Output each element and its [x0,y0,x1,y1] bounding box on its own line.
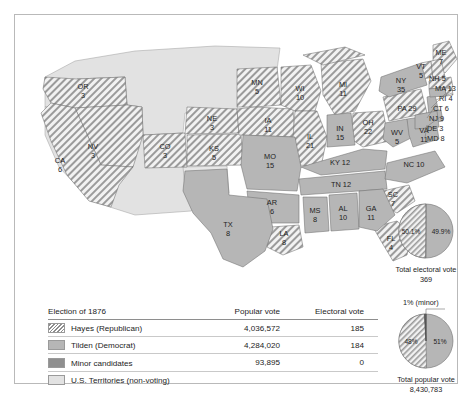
table-row: Hayes (Republican) 4,036,572 185 [48,320,378,337]
label-MA: MA 13 [435,84,456,93]
legend-row-minor: Minor candidates [48,354,202,371]
label-AL: AL [338,204,347,213]
label-OH-votes: 22 [364,127,372,136]
territories-popular-vote [202,371,302,388]
label-MO: MO [264,152,276,161]
header-election-title: Election of 1876 [48,304,202,320]
label-NH: NH 5 [429,74,446,83]
election-results-legend: Election of 1876 Popular vote Electoral … [48,304,378,388]
label-IN-votes: 15 [336,133,344,142]
legend-label-hayes: Hayes (Republican) [71,324,142,333]
label-SC: SC [388,190,399,199]
label-TX-votes: 8 [226,229,230,238]
label-GA: GA [366,204,377,213]
label-IL: IL [307,132,313,141]
legend-label-minor: Minor candidates [71,359,133,368]
label-ME-votes: 7 [439,57,443,66]
label-MI: MI [339,80,347,89]
label-OH: OH [362,118,373,127]
label-WV-votes: 5 [395,137,399,146]
territories-electoral-vote [302,371,378,388]
label-CA-votes: 6 [58,165,62,174]
popular-pie-caption-line1: Total popular vote [393,375,459,385]
label-WI-votes: 10 [296,93,304,102]
label-VT-votes: 5 [419,71,423,80]
label-MI-votes: 11 [339,89,347,98]
legend-row-hayes: Hayes (Republican) [48,320,202,337]
label-NE-votes: 3 [210,123,214,132]
table-header-row: Election of 1876 Popular vote Electoral … [48,304,378,320]
minor-label-leader-line [393,305,459,319]
label-OR: OR [77,82,88,91]
electoral-pie-caption-line2: 369 [393,275,459,285]
label-IA: IA [265,116,272,125]
label-NY-votes: 35 [397,85,405,94]
map-figure-frame: OR 3 NV 3 CA 6 CO 3 NE 3 KS 5 MN 5 IA 11… [14,14,458,384]
label-CO-votes: 3 [163,151,167,160]
minor-dark-swatch [48,358,65,368]
electoral-pie-caption: Total electoral vote 369 [393,265,459,284]
label-MN-votes: 5 [255,87,259,96]
label-TX: TX [223,220,233,229]
label-ME: ME [435,48,446,57]
popular-vote-pie-block: 48% 51% Total popular vote 8,430,783 [393,313,459,394]
label-NY: NY [396,76,406,85]
label-LA: LA [279,229,288,238]
tilden-electoral-vote: 184 [302,337,378,354]
popular-pie-right-pct: 51% [433,338,446,345]
electoral-pie-right-pct: 49.9% [432,228,451,235]
legend-label-territories: U.S. Territories (non-voting) [71,376,170,385]
label-MS: MS [309,206,320,215]
label-AR: AR [267,198,277,207]
label-OR-votes: 3 [81,91,85,100]
label-TN: TN 12 [331,180,351,189]
legend-row-territories: U.S. Territories (non-voting) [48,371,202,388]
minor-electoral-vote: 0 [302,354,378,371]
label-MD: MD 8 [427,134,445,143]
label-NV: NV [88,142,98,151]
label-PA: PA 29 [397,104,416,113]
header-popular-vote: Popular vote [202,304,302,320]
label-KS: KS [209,144,219,153]
electoral-pie-left-pct: 50.1% [402,228,421,235]
label-NV-votes: 3 [91,151,95,160]
electoral-pie-chart: 50.1% 49.9% [393,203,459,259]
minor-popular-vote: 93,895 [202,354,302,371]
label-NJ: NJ 9 [429,114,444,123]
label-CO: CO [159,142,170,151]
label-KS-votes: 5 [212,153,216,162]
label-IA-votes: 11 [264,125,272,134]
label-WI: WI [295,84,304,93]
hayes-popular-vote: 4,036,572 [202,320,302,337]
electoral-pie-caption-line1: Total electoral vote [393,265,459,275]
label-CA: CA [55,156,65,165]
label-AL-votes: 10 [339,213,347,222]
header-electoral-vote: Electoral vote [302,304,378,320]
label-MO-votes: 15 [266,161,274,170]
territory-light-swatch [48,375,65,385]
label-NC: NC 10 [404,160,425,169]
label-CT: CT 6 [433,104,449,113]
popular-pie-left-pct: 48% [404,338,417,345]
hayes-electoral-vote: 185 [302,320,378,337]
popular-pie-chart: 48% 51% [393,313,459,369]
table-row: Tilden (Democrat) 4,284,020 184 [48,337,378,354]
label-WV: WV [391,128,403,137]
legend-row-tilden: Tilden (Democrat) [48,337,202,354]
label-IL-votes: 21 [306,141,314,150]
label-RI: RI 4 [439,94,453,103]
popular-pie-caption: Total popular vote 8,430,783 [393,375,459,394]
label-DE: DE 3 [427,124,443,133]
legend-label-tilden: Tilden (Democrat) [71,341,135,350]
label-LA-votes: 8 [282,238,286,247]
label-KY: KY 12 [330,158,350,167]
table-row: U.S. Territories (non-voting) [48,371,378,388]
popular-pie-caption-line2: 8,430,783 [393,385,459,395]
hayes-hatched-swatch [48,323,65,333]
electoral-vote-pie-block: 50.1% 49.9% Total electoral vote 369 [393,203,459,284]
results-table: Election of 1876 Popular vote Electoral … [48,304,378,388]
label-AR-votes: 6 [270,207,274,216]
tilden-gray-swatch [48,340,65,350]
label-NE: NE [207,114,217,123]
label-MN: MN [251,78,263,87]
